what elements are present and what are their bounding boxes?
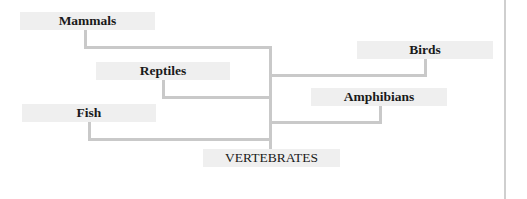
mammals-branch xyxy=(84,46,272,49)
node-fish: Fish xyxy=(22,104,156,122)
node-label: Amphibians xyxy=(344,89,415,105)
node-birds: Birds xyxy=(357,41,493,59)
right-edge-divider xyxy=(504,0,506,199)
node-label: Fish xyxy=(77,105,102,121)
node-vertebrates: VERTEBRATES xyxy=(203,149,340,167)
birds-branch xyxy=(269,74,427,77)
root-label: VERTEBRATES xyxy=(225,150,318,166)
node-label: Birds xyxy=(409,42,441,58)
node-reptiles: Reptiles xyxy=(96,62,230,80)
amphibians-branch xyxy=(269,121,382,124)
node-amphibians: Amphibians xyxy=(311,88,447,106)
fish-branch xyxy=(88,138,272,141)
node-label: Mammals xyxy=(59,13,117,29)
node-label: Reptiles xyxy=(140,63,187,79)
reptiles-branch xyxy=(162,96,272,99)
node-mammals: Mammals xyxy=(20,12,155,30)
